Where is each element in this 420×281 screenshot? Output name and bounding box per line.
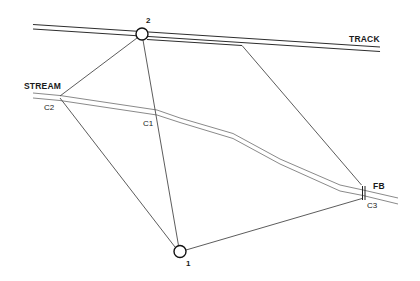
- track-line-bottom: [33, 29, 380, 52]
- line-track-to-fb: [242, 46, 362, 186]
- survey-lines: [60, 38, 362, 250]
- line-1-to-c3: [186, 199, 362, 251]
- c1-label: C1: [143, 119, 154, 128]
- stream: [33, 93, 398, 204]
- stream-label: STREAM: [24, 81, 61, 91]
- c2-label: C2: [44, 103, 55, 112]
- survey-diagram: TRACK STREAM FB C1 C2 C3 2 1: [0, 0, 420, 281]
- c3-label: C3: [367, 201, 378, 210]
- stream-bank-upper: [33, 93, 398, 198]
- station-1-label: 1: [186, 259, 191, 268]
- track-spur-line: [147, 40, 242, 46]
- track-label: TRACK: [349, 34, 380, 44]
- stream-bank-lower: [33, 98, 398, 204]
- station-2-circle-icon: [136, 28, 148, 40]
- station-1-circle-icon: [174, 246, 186, 258]
- line-2-to-1: [143, 40, 179, 246]
- footbridge-marker: [363, 186, 366, 200]
- track: [33, 25, 380, 52]
- line-c2-to-1: [60, 98, 175, 247]
- footbridge-label: FB: [373, 181, 385, 191]
- line-2-to-c2: [60, 38, 137, 96]
- station-2-label: 2: [146, 16, 151, 25]
